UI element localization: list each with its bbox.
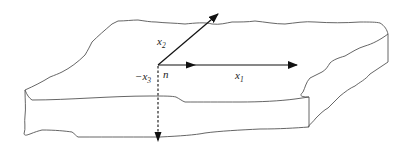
x1-mid-arrowhead: [186, 62, 196, 69]
x2-axis-arrow: [158, 14, 218, 65]
slab-top-surface-outline: [25, 20, 388, 90]
slab-front-top-edge: [25, 90, 309, 102]
slab-diagram: x2 x1 −x3 n: [0, 0, 409, 151]
x1-label: x1: [234, 69, 244, 84]
x2-label: x2: [156, 35, 166, 50]
n-label: n: [163, 68, 169, 80]
slab-right-face-break: [301, 34, 388, 97]
slab-bottom-edge: [78, 127, 309, 137]
neg-x3-label: −x3: [135, 70, 151, 85]
slab-right-edge: [308, 34, 388, 127]
slab-left-edge: [24, 90, 78, 137]
